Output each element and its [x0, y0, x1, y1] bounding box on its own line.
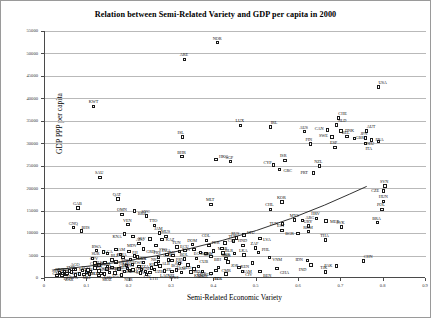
- data-point-label: LBN: [138, 257, 146, 261]
- data-point-label: LTU: [247, 231, 255, 235]
- data-point-label: HKG: [219, 155, 228, 159]
- data-point: [86, 268, 89, 271]
- data-point-label: PLW: [95, 261, 103, 265]
- gridline-horizontal: [45, 166, 426, 167]
- trend-line: [45, 31, 426, 278]
- data-point: [195, 257, 198, 260]
- y-tick-label: 15000: [0, 208, 38, 213]
- data-point: [235, 236, 238, 239]
- data-point: [272, 163, 275, 166]
- data-point-label: PRY: [176, 258, 184, 262]
- gridline-horizontal: [45, 98, 426, 99]
- data-point: [123, 232, 126, 235]
- data-point: [131, 235, 134, 238]
- data-point: [163, 269, 166, 272]
- data-point-label: GBR: [355, 136, 364, 140]
- data-point-label: SYC: [159, 248, 167, 252]
- y-tick-mark: [41, 76, 44, 77]
- data-point: [242, 233, 245, 236]
- data-point: [72, 226, 75, 229]
- data-point-label: BHS: [81, 226, 89, 230]
- data-point-label: FIN: [305, 138, 312, 142]
- data-point: [254, 246, 257, 249]
- data-point-label: KEN: [240, 265, 249, 269]
- data-point-label: GNQ: [69, 222, 78, 226]
- y-tick-mark: [41, 143, 44, 144]
- data-point-label: ISR: [280, 154, 286, 158]
- data-point-label: MOZ: [102, 278, 111, 282]
- data-point: [324, 270, 327, 273]
- gridline-horizontal: [45, 31, 426, 32]
- x-tick-label: 0.3: [158, 283, 184, 288]
- data-point-label: IND: [299, 268, 306, 272]
- data-point: [139, 271, 142, 274]
- data-point: [364, 136, 367, 139]
- data-point-label: IDN: [295, 258, 302, 262]
- data-point: [183, 58, 186, 61]
- gridline-horizontal: [45, 188, 426, 189]
- data-point-label: JPN: [360, 132, 367, 136]
- data-point-label: BGR: [285, 232, 294, 236]
- data-point-label: NOR: [213, 37, 222, 41]
- data-point: [214, 158, 217, 161]
- data-point: [258, 237, 261, 240]
- data-point: [233, 252, 236, 255]
- data-point-label: IRL: [271, 121, 278, 125]
- y-tick-mark: [41, 233, 44, 234]
- data-point: [224, 272, 227, 275]
- data-point-label: GRC: [284, 169, 293, 173]
- data-point-label: ZWE: [197, 272, 206, 276]
- x-tick-mark: [171, 278, 172, 281]
- data-point-label: CYP: [264, 161, 272, 165]
- data-point-label: DMA: [117, 253, 127, 257]
- y-tick-mark: [41, 53, 44, 54]
- data-point: [324, 219, 327, 222]
- data-point: [145, 273, 148, 276]
- y-tick-label: 50000: [0, 51, 38, 56]
- data-point: [165, 253, 168, 256]
- data-point-label: BEL: [342, 131, 350, 135]
- data-point-label: NZL: [314, 160, 322, 164]
- data-point: [220, 247, 223, 250]
- data-point: [383, 184, 386, 187]
- data-point: [335, 264, 338, 267]
- data-point-label: VEN: [123, 219, 132, 223]
- data-point-label: TKM: [135, 267, 144, 271]
- data-point: [229, 160, 232, 163]
- data-point-label: TTO: [149, 219, 157, 223]
- data-point-label: VNM: [272, 258, 282, 262]
- y-tick-label: 20000: [0, 186, 38, 191]
- y-tick-mark: [41, 121, 44, 122]
- data-point: [123, 270, 126, 273]
- data-point: [205, 239, 208, 242]
- data-point: [142, 247, 145, 250]
- data-point: [307, 230, 310, 233]
- x-tick-label: 0.1: [73, 283, 99, 288]
- data-point: [110, 258, 113, 261]
- gridline-horizontal: [45, 53, 426, 54]
- y-tick-label: 10000: [0, 230, 38, 235]
- plot-area: NORAREUSAKWTCHENLDIRLCANDNKAUSAUTSWEBELG…: [44, 31, 425, 278]
- y-tick-mark: [41, 211, 44, 212]
- data-point-label: MYS: [290, 214, 299, 218]
- data-point-label: ERI: [63, 277, 70, 281]
- data-point-label: ETH: [150, 277, 158, 281]
- data-point-label: USA: [379, 81, 387, 85]
- y-tick-label: 0: [0, 275, 38, 280]
- data-point: [180, 271, 183, 274]
- data-point: [180, 155, 183, 158]
- y-tick-label: 5000: [0, 253, 38, 258]
- data-point: [226, 260, 229, 263]
- data-point-label: CUB: [200, 260, 209, 264]
- data-point: [315, 217, 318, 220]
- data-point: [178, 250, 181, 253]
- data-point-label: SVN: [380, 180, 388, 184]
- data-point: [269, 125, 272, 128]
- data-point: [154, 244, 157, 247]
- gridline-horizontal: [45, 76, 426, 77]
- data-point: [150, 266, 153, 269]
- data-point: [160, 238, 163, 241]
- y-tick-label: 55000: [0, 28, 38, 33]
- data-point-label: SVK: [336, 221, 344, 225]
- data-point: [257, 251, 260, 254]
